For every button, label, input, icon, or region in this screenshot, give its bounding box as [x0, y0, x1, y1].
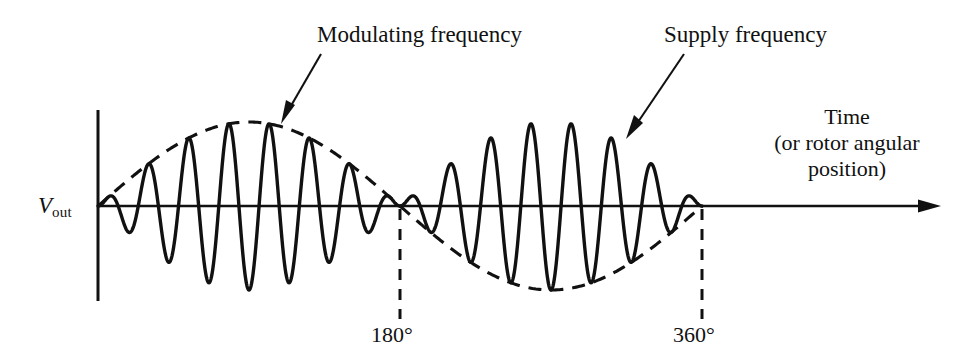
annotation-modulating-frequency: Modulating frequency: [317, 21, 522, 48]
x-tick-label-180: 180°: [371, 322, 413, 348]
axis-label-vout: Vout: [38, 192, 72, 222]
vout-subscript: out: [52, 204, 72, 220]
vout-symbol: V: [38, 193, 52, 218]
waveform-figure: Modulating frequency Supply frequency Ti…: [0, 0, 973, 361]
leader-line-modulating: [288, 54, 321, 111]
axis-label-time-line3: position): [752, 156, 942, 182]
x-axis-arrowhead: [918, 200, 941, 213]
envelope-curve-upper: [98, 122, 400, 206]
envelope-curve-lower: [400, 206, 702, 290]
annotation-supply-frequency: Supply frequency: [664, 21, 827, 48]
axis-label-time-line2: (or rotor angular: [752, 130, 942, 156]
axis-label-time-line1: Time: [752, 104, 942, 130]
x-tick-label-360: 360°: [673, 322, 715, 348]
axis-label-time: Time (or rotor angular position): [752, 104, 942, 182]
leader-line-supply: [636, 54, 684, 125]
